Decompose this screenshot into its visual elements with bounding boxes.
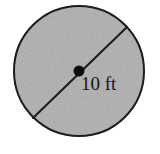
diameter-measurement-label: 10 ft bbox=[81, 74, 116, 93]
circle-diagram-figure: 10 ft bbox=[0, 0, 160, 154]
circle-diagram-canvas bbox=[0, 0, 160, 154]
